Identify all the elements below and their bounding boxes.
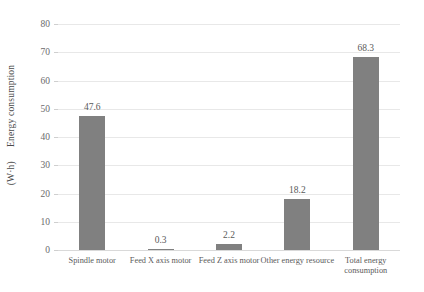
- bar: [284, 199, 310, 250]
- gridline: [58, 137, 400, 138]
- bar: [353, 57, 379, 250]
- y-axis-label: Energy consumption: [6, 65, 16, 147]
- x-tick-label: Feed X axis motor: [122, 256, 200, 266]
- y-tick-label: 70: [26, 47, 50, 57]
- gridline: [58, 250, 400, 251]
- x-tick-label: Feed Z axis motor: [190, 256, 268, 266]
- bar: [216, 244, 242, 250]
- y-tick-label: 30: [26, 160, 50, 170]
- bar-value-label: 47.6: [62, 102, 122, 112]
- bar-value-label: 68.3: [336, 43, 396, 53]
- plot-area: 47.60.32.218.268.3: [58, 24, 400, 250]
- bar-value-label: 0.3: [131, 235, 191, 245]
- y-tick-label: 60: [26, 76, 50, 86]
- gridline: [58, 165, 400, 166]
- y-axis-unit: (W·h): [6, 161, 16, 185]
- y-tick-label: 40: [26, 132, 50, 142]
- y-tick-label: 50: [26, 104, 50, 114]
- bar: [148, 249, 174, 250]
- bar-value-label: 18.2: [267, 185, 327, 195]
- bar: [79, 116, 105, 250]
- bar-chart: (W·h) Energy consumption 010203040506070…: [0, 0, 424, 292]
- x-tick-label: Spindle motor: [53, 256, 131, 266]
- y-tick-label: 80: [26, 19, 50, 29]
- x-tick-label: Total energy consumption: [327, 256, 405, 276]
- gridline: [58, 222, 400, 223]
- gridline: [58, 194, 400, 195]
- y-tick-label: 10: [26, 217, 50, 227]
- gridline: [58, 24, 400, 25]
- x-tick-label: Other energy resource: [258, 256, 336, 266]
- y-tick-label: 20: [26, 189, 50, 199]
- bar-value-label: 2.2: [199, 230, 259, 240]
- gridline: [58, 81, 400, 82]
- y-tick-label: 0: [26, 245, 50, 255]
- y-axis-title: (W·h) Energy consumption: [0, 0, 22, 250]
